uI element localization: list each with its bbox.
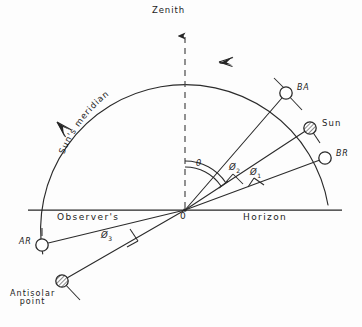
angle-phi3-bracket <box>127 229 138 247</box>
ray-to-BR <box>185 157 328 210</box>
point-marker-antisolar <box>56 275 68 287</box>
ray-to-Sun <box>185 126 313 210</box>
angle-theta-arc <box>185 161 228 188</box>
point-marker-BR <box>319 152 331 164</box>
origin-label: 0 <box>180 212 186 221</box>
ray-to-BA <box>185 91 288 210</box>
zenith-label: Zenith <box>152 6 185 15</box>
suns-meridian-label: Sun's meridian <box>57 88 111 155</box>
ray-extensions <box>42 78 320 300</box>
point-marker-sun <box>304 122 316 134</box>
point-marker-BA <box>280 87 292 99</box>
point-label-BA: BA <box>297 84 310 92</box>
horizon-label: Horizon <box>243 213 287 222</box>
angle-label-phi2: Ø2 <box>229 163 241 174</box>
point-marker-AR <box>36 239 48 251</box>
antisolar-label-line2: point <box>20 297 46 306</box>
diagram-canvas: Sun's meridian Zenith BA Sun BR AR Antis… <box>0 0 362 327</box>
point-label-BR: BR <box>336 150 349 158</box>
antisolar-label: Antisolarpoint <box>10 290 55 307</box>
angle-phi1-subscript: 1 <box>257 172 261 179</box>
point-label-sun: Sun <box>322 119 341 128</box>
angle-label-phi1: Ø1 <box>250 168 262 179</box>
angle-label-theta: θ <box>196 159 202 168</box>
angle-phi2-bracket <box>226 174 243 184</box>
arc-arrow-top-icon <box>218 56 234 67</box>
angle-phi3-subscript: 3 <box>108 235 112 242</box>
diagram-svg: Sun's meridian <box>0 0 362 327</box>
point-label-AR: AR <box>19 238 32 246</box>
observers-label: Observer's <box>57 213 119 222</box>
angle-phi2-subscript: 2 <box>236 167 240 174</box>
angle-label-phi3: Ø3 <box>101 231 113 242</box>
